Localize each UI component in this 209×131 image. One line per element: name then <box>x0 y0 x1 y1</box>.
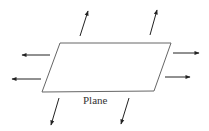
plane-shape <box>42 43 171 92</box>
force-arrows <box>12 10 199 125</box>
arrow-down-left-icon <box>51 98 59 125</box>
plane-label: Plane <box>83 94 108 106</box>
arrow-down-right-icon <box>121 98 129 124</box>
arrow-up-left-icon <box>80 11 88 36</box>
plane-diagram: Plane <box>0 0 209 131</box>
arrow-up-right-icon <box>150 10 157 35</box>
